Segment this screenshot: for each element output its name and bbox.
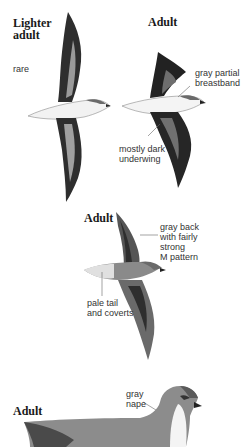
note-gray-partial-breastband: gray partial breastband [195, 68, 240, 88]
bird-adult-underside [122, 52, 206, 188]
bird-adult-sitting [24, 386, 202, 447]
figure-heading-adult-upperside: Adult [84, 212, 113, 224]
note-mostly-dark-underwing: mostly dark underwing [119, 144, 165, 164]
note-pale-tail-and-coverts: pale tail and coverts [87, 298, 134, 318]
note-gray-nape: gray nape [126, 389, 146, 409]
field-guide-plate: Lighter adult rare Adult gray partial br… [0, 0, 251, 447]
note-rare: rare [13, 64, 29, 74]
figure-heading-adult-underside: Adult [148, 16, 177, 28]
figure-heading-lighter-adult: Lighter adult [13, 17, 52, 41]
bird-adult-upperside [84, 212, 166, 360]
heading-line-2: adult [13, 29, 52, 41]
note-gray-back-m-pattern: gray back with fairly strong M pattern [160, 222, 199, 262]
figure-heading-adult-sitting: Adult [13, 405, 42, 417]
